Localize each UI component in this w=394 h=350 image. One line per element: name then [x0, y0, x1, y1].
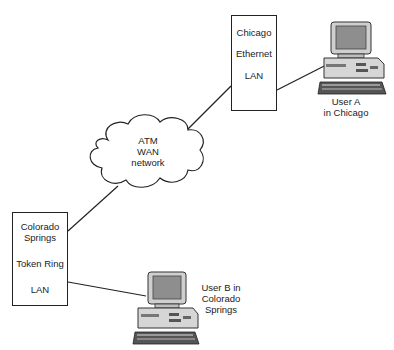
node-label-line: Springs	[13, 232, 67, 243]
atm-wan-network-label: ATM WAN network	[118, 135, 178, 168]
cloud-label-line: network	[118, 157, 178, 168]
user-b-label-line: User B in	[198, 282, 244, 293]
cloud-label-line: WAN	[118, 146, 178, 157]
user-a-computer-icon	[318, 22, 386, 94]
user-b-label-line: Colorado	[198, 293, 244, 304]
chicago-ethernet-lan-node: Chicago Ethernet LAN	[231, 15, 277, 111]
edge-colorado-user-b	[68, 282, 146, 296]
user-a-label: User A in Chicago	[318, 96, 374, 118]
user-a-label-line: in Chicago	[318, 107, 374, 118]
cloud-label-line: ATM	[118, 135, 178, 146]
node-label-line: Colorado	[13, 221, 67, 232]
node-label-line: LAN	[13, 284, 67, 295]
node-label-line: LAN	[232, 70, 276, 81]
edge-wan-colorado	[68, 186, 118, 231]
colorado-springs-token-ring-lan-node: Colorado Springs Token Ring LAN	[12, 212, 68, 306]
node-label-line: Token Ring	[13, 258, 67, 269]
user-b-label-line: Springs	[198, 304, 244, 315]
user-b-label: User B in Colorado Springs	[198, 282, 244, 315]
node-label-line: Chicago	[232, 27, 276, 38]
user-a-label-line: User A	[318, 96, 374, 107]
user-b-computer-icon	[133, 272, 199, 344]
node-label-line: Ethernet	[232, 48, 276, 59]
